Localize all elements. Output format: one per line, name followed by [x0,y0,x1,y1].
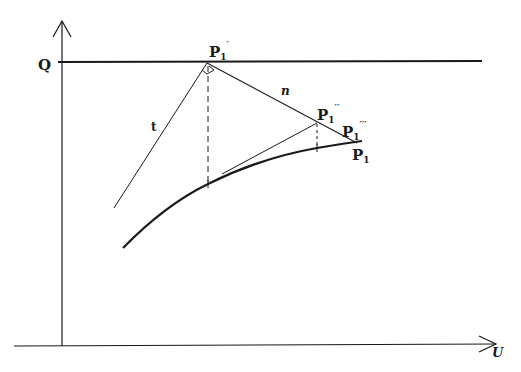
p1-prime-sub: 1 [220,52,226,62]
y-axis [53,21,71,346]
p1-double-prime-sub: 1 [328,115,334,125]
p1-double-prime-sup: ′′ [335,103,340,113]
p1-double-prime-base: P [317,106,328,124]
t-line [114,63,207,208]
p1-base: P [352,146,363,164]
p1-triple-prime-sup: ′′′ [360,120,368,130]
tangent-to-p1-double-prime [222,123,317,174]
y-axis-label: Q [38,56,51,74]
x-axis [14,336,496,352]
point-label-p1: P1 [352,146,370,165]
p1-triple-prime-base: P [342,123,353,141]
t-line-label: t [151,120,157,134]
p1-triple-prime-sub: 1 [353,132,359,142]
diagram-canvas: Q U t n P1′ P1′′ P1′′′ P1 [0,0,521,372]
x-axis-label: U [492,345,504,360]
q-level-line [58,61,482,62]
point-label-p1-triple-prime: P1′′′ [342,120,367,142]
p1-prime-base: P [209,43,220,61]
point-label-p1-prime: P1′ [209,40,230,62]
curve [123,141,362,248]
p1-sub: 1 [363,155,369,165]
n-line-label: n [281,84,290,98]
p1-prime-sup: ′ [227,40,230,50]
point-label-p1-double-prime: P1′′ [317,103,340,125]
